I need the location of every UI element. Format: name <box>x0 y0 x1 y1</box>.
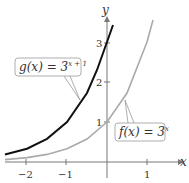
y-tick-label: 2 <box>96 77 102 88</box>
x-tick-label: −2 <box>18 169 33 180</box>
x-axis-label: x <box>180 155 187 169</box>
y-tick-label: 3 <box>96 38 102 49</box>
g-label-callout: g(x) = 3x + 1 <box>15 58 87 100</box>
f-label-callout: f(x) = 3x <box>115 100 169 141</box>
x-tick-label: −1 <box>58 169 73 180</box>
y-axis-label: y <box>101 3 109 17</box>
x-tick-label: 1 <box>144 169 150 180</box>
f-label: f(x) = 3x <box>118 125 169 139</box>
exponential-graph: x y −2 −1 1 1 2 3 g(x) = 3x + 1 f(x) = 3… <box>0 0 189 183</box>
